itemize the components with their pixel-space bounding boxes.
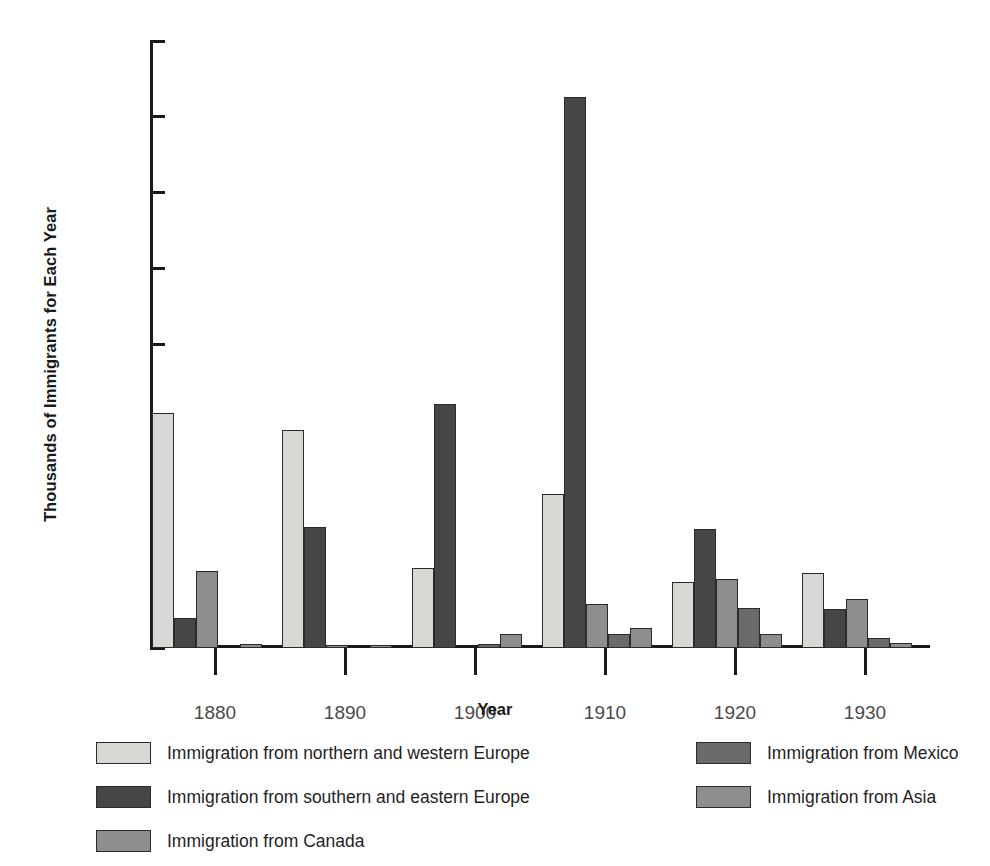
x-axis-title: Year [0,700,990,719]
legend-item: Immigration from northern and western Eu… [96,742,530,764]
bar [760,634,782,648]
x-axis-tick [734,648,737,675]
legend-item: Immigration from Canada [96,830,364,852]
bar [500,634,522,648]
y-axis-tick [150,115,165,118]
bar [542,494,564,648]
legend-swatch [696,742,751,764]
legend-item: Immigration from Mexico [696,742,959,764]
bar [370,645,392,648]
legend-label: Immigration from northern and western Eu… [167,743,530,764]
bar [630,628,652,648]
x-axis-tick [214,648,217,675]
legend-swatch [696,786,751,808]
legend-label: Immigration from Asia [767,787,936,808]
x-axis-tick [474,648,477,675]
y-axis-tick [150,267,165,270]
legend-label: Immigration from Mexico [767,743,959,764]
immigration-bar-chart: Thousands of Immigrants for Each Year 01… [0,0,990,866]
bar [434,404,456,648]
chart-legend: Immigration from northern and western Eu… [96,742,976,862]
plot-area: 0100200300400500600700800 18801890190019… [150,41,930,648]
bar [196,571,218,648]
bar [586,604,608,648]
bar [240,644,262,648]
legend-swatch [96,742,151,764]
bar [672,582,694,648]
legend-swatch [96,786,151,808]
y-axis-tick [150,40,165,43]
bar [282,430,304,648]
bar [326,645,348,648]
bar [608,634,630,648]
legend-label: Immigration from southern and eastern Eu… [167,787,530,808]
bar [846,599,868,648]
legend-label: Immigration from Canada [167,831,364,852]
bar [174,618,196,648]
bar [716,579,738,648]
bar [824,609,846,648]
bar [868,638,890,648]
legend-item: Immigration from southern and eastern Eu… [96,786,530,808]
y-axis-title: Thousands of Immigrants for Each Year [41,130,60,600]
bar [738,608,760,648]
bar [890,643,912,648]
bar [304,527,326,648]
bar [152,413,174,648]
y-axis-tick [150,343,165,346]
bar [694,529,716,648]
bar [478,644,500,648]
bar [564,97,586,648]
bar [412,568,434,648]
y-axis-tick [150,191,165,194]
bar [802,573,824,648]
top-edge-artifact [0,0,990,8]
x-axis-tick [344,648,347,675]
legend-item: Immigration from Asia [696,786,936,808]
legend-swatch [96,830,151,852]
x-axis-tick [604,648,607,675]
x-axis-tick [864,648,867,675]
